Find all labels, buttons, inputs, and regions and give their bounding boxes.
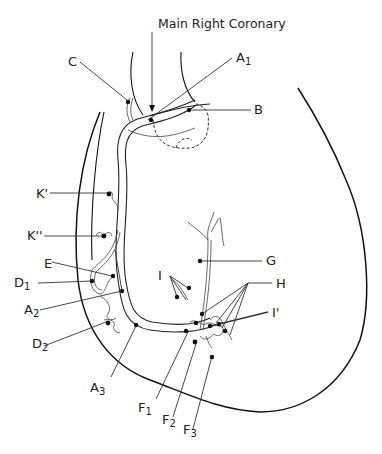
label-f1: F1 <box>138 400 152 417</box>
label-d1: D1 <box>14 275 30 292</box>
labels: Main Right Coronary A1 B C K' K'' E D1 A… <box>14 16 286 439</box>
label-k-prime: K' <box>36 186 48 201</box>
label-c: C <box>68 54 77 69</box>
label-k-double-prime: K'' <box>27 228 43 243</box>
label-f3: F3 <box>183 422 197 439</box>
label-e: E <box>44 256 52 271</box>
label-a2: A2 <box>24 302 39 319</box>
label-d2: D2 <box>32 336 48 353</box>
label-h: H <box>276 276 286 291</box>
label-b: B <box>254 102 263 117</box>
label-a1: A1 <box>236 50 251 67</box>
label-i: I <box>158 268 162 283</box>
label-g: G <box>266 253 276 268</box>
coronary-artery-diagram: Main Right Coronary A1 B C K' K'' E D1 A… <box>0 0 382 454</box>
label-a3: A3 <box>90 380 105 397</box>
label-i-prime: I' <box>272 305 279 320</box>
main-right-coronary-vessel <box>90 98 232 348</box>
title-main-right-coronary: Main Right Coronary <box>158 16 286 31</box>
leader-lines <box>38 32 272 429</box>
